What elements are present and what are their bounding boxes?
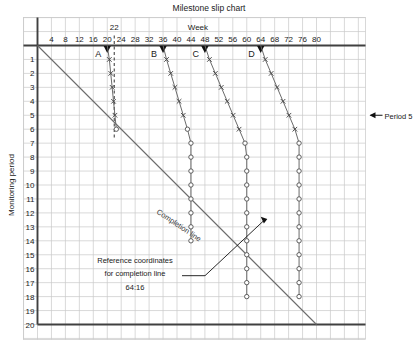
data-point-circle xyxy=(189,141,193,145)
y-tick-label: 5 xyxy=(30,111,35,120)
data-point-circle xyxy=(245,253,249,257)
data-point-circle xyxy=(297,267,301,271)
y-tick-label: 2 xyxy=(30,69,35,78)
x-tick-label: 72 xyxy=(284,35,293,44)
data-point-circle xyxy=(243,141,247,145)
y-tick-label: 14 xyxy=(26,237,35,246)
y-tick-label: 10 xyxy=(26,181,35,190)
y-axis-label: Monitoring period xyxy=(7,154,16,216)
y-tick-label: 11 xyxy=(26,195,35,204)
x-tick-label: 24 xyxy=(117,35,126,44)
y-tick-label: 17 xyxy=(26,279,35,288)
data-point-circle xyxy=(245,239,249,243)
data-point-circle xyxy=(297,253,301,257)
data-point-circle xyxy=(189,155,193,159)
reference-callout-line2: for completion line xyxy=(105,269,166,278)
x-tick-label: 48 xyxy=(200,35,209,44)
milestone-series-A: A xyxy=(95,46,118,132)
current-week-label: 22 xyxy=(110,23,119,32)
data-point-circle xyxy=(189,183,193,187)
y-tick-label: 6 xyxy=(30,125,35,134)
milestone-label-D: D xyxy=(248,49,255,59)
data-point-circle xyxy=(189,211,193,215)
y-tick-label: 4 xyxy=(30,97,35,106)
y-tick-label: 9 xyxy=(30,167,35,176)
x-tick-label: 56 xyxy=(228,35,237,44)
x-axis-label: Week xyxy=(188,23,209,32)
data-point-circle xyxy=(297,294,301,298)
y-tick-label: 16 xyxy=(26,265,35,274)
y-tick-label: 1 xyxy=(30,55,35,64)
data-point-circle xyxy=(245,294,249,298)
x-tick-label: 76 xyxy=(298,35,307,44)
data-point-circle xyxy=(114,127,118,131)
y-tick-label: 20 xyxy=(26,321,35,330)
grid-layer xyxy=(24,18,366,340)
data-point-circle xyxy=(297,169,301,173)
y-tick-label: 8 xyxy=(30,153,35,162)
data-point-circle xyxy=(245,225,249,229)
data-point-circle xyxy=(245,183,249,187)
y-tick-label: 19 xyxy=(26,307,35,316)
data-point-circle xyxy=(297,280,301,284)
chart-canvas: Milestone slip chartWeek2248121620242832… xyxy=(0,0,418,349)
y-tick-label: 13 xyxy=(26,223,35,232)
x-tick-label: 36 xyxy=(159,35,168,44)
data-point-circle xyxy=(189,239,193,243)
data-point-circle xyxy=(189,197,193,201)
reference-callout-line3: 64:16 xyxy=(126,283,145,292)
data-point-circle xyxy=(189,169,193,173)
x-tick-label: 12 xyxy=(75,35,84,44)
period-marker-label: Period 5 xyxy=(385,112,413,121)
x-tick-label: 32 xyxy=(145,35,154,44)
y-tick-label: 18 xyxy=(26,293,35,302)
x-tick-label: 28 xyxy=(131,35,140,44)
chart-title: Milestone slip chart xyxy=(173,3,246,13)
grid-frame xyxy=(24,18,366,340)
x-tick-label: 20 xyxy=(103,35,112,44)
milestone-label-B: B xyxy=(151,49,157,59)
data-point-circle xyxy=(297,225,301,229)
data-point-circle xyxy=(245,197,249,201)
y-tick-label: 7 xyxy=(30,139,35,148)
data-point-circle xyxy=(245,155,249,159)
data-point-circle xyxy=(245,211,249,215)
data-point-circle xyxy=(245,169,249,173)
x-tick-label: 60 xyxy=(242,35,251,44)
data-point-circle xyxy=(185,127,189,131)
data-point-circle xyxy=(297,211,301,215)
data-point-circle xyxy=(297,155,301,159)
x-tick-label: 16 xyxy=(89,35,98,44)
y-tick-label: 12 xyxy=(26,209,35,218)
milestone-slip-chart: Milestone slip chartWeek2248121620242832… xyxy=(0,0,418,349)
x-tick-label: 40 xyxy=(173,35,182,44)
x-tick-label: 68 xyxy=(270,35,279,44)
milestone-label-C: C xyxy=(192,49,199,59)
data-point-circle xyxy=(297,183,301,187)
y-tick-label: 3 xyxy=(30,83,35,92)
reference-callout-line1: Reference coordinates xyxy=(97,256,173,265)
data-point-circle xyxy=(245,280,249,284)
x-tick-label: 4 xyxy=(49,35,54,44)
data-point-circle xyxy=(189,225,193,229)
x-tick-label: 52 xyxy=(214,35,223,44)
milestone-label-A: A xyxy=(95,49,101,59)
x-tick-label: 80 xyxy=(312,35,321,44)
period-callout-arrow xyxy=(370,112,376,118)
x-tick-label: 44 xyxy=(186,35,195,44)
reference-callout-leader xyxy=(182,221,264,276)
data-point-circle xyxy=(297,141,301,145)
x-tick-label: 64 xyxy=(256,35,265,44)
data-point-circle xyxy=(245,267,249,271)
data-point-circle xyxy=(297,197,301,201)
x-tick-label: 8 xyxy=(63,35,68,44)
y-tick-label: 15 xyxy=(26,251,35,260)
data-point-circle xyxy=(297,239,301,243)
